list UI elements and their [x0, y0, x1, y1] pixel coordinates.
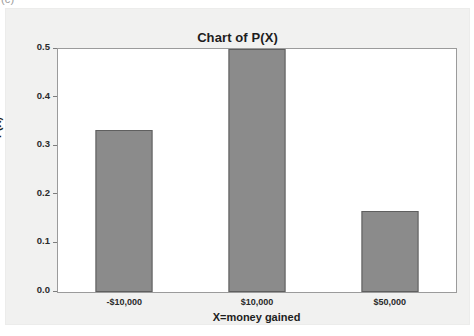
- bar[interactable]: [96, 130, 153, 292]
- y-tick-mark: [53, 291, 57, 292]
- y-tick-label: 0.4: [37, 90, 50, 101]
- bar-slot: [323, 49, 456, 292]
- bar[interactable]: [228, 49, 285, 292]
- y-axis-label: P(X): [0, 117, 3, 138]
- x-tick-label: $10,000: [191, 297, 324, 307]
- figure-panel: rule The for value ns Chart of P(X) P(X)…: [5, 8, 470, 325]
- x-tick-label: $50,000: [323, 297, 456, 307]
- figure-corner-tag: (c): [1, 0, 14, 5]
- y-tick-mark: [53, 48, 57, 49]
- y-tick-mark: [53, 193, 57, 194]
- bar-series: [58, 49, 456, 292]
- y-tick-mark: [53, 145, 57, 146]
- y-tick-label: 0.3: [37, 138, 50, 149]
- y-tick-mark: [53, 242, 57, 243]
- y-tick-label: 0.1: [37, 235, 50, 246]
- bar[interactable]: [361, 211, 418, 292]
- x-tick-label: -$10,000: [58, 297, 191, 307]
- x-axis-ticks: -$10,000$10,000$50,000: [58, 292, 456, 312]
- y-tick-label: 0.5: [37, 41, 50, 52]
- x-axis-label: X=money gained: [57, 311, 456, 323]
- chart-title: Chart of P(X): [5, 30, 470, 45]
- y-tick-label: 0.0: [37, 284, 50, 295]
- y-tick-mark: [53, 96, 57, 97]
- bar-slot: [58, 49, 191, 292]
- y-tick-label: 0.2: [37, 187, 50, 198]
- bar-slot: [191, 49, 324, 292]
